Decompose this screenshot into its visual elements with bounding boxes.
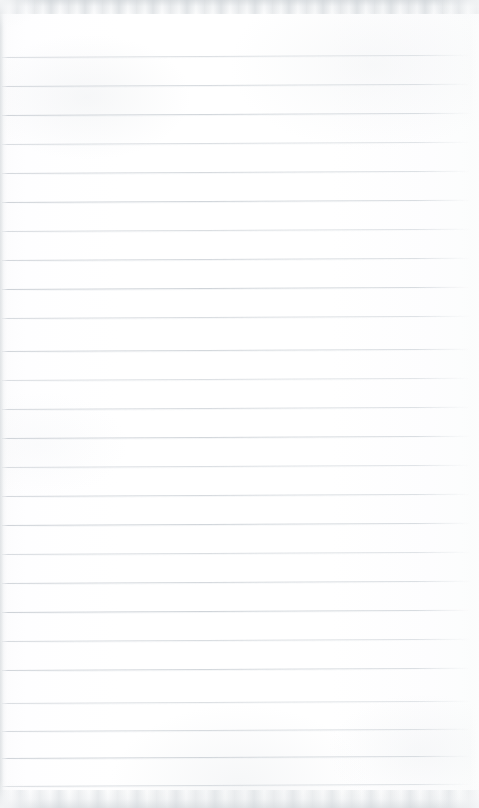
writing-area (4, 20, 472, 790)
scanned-page (0, 0, 479, 808)
